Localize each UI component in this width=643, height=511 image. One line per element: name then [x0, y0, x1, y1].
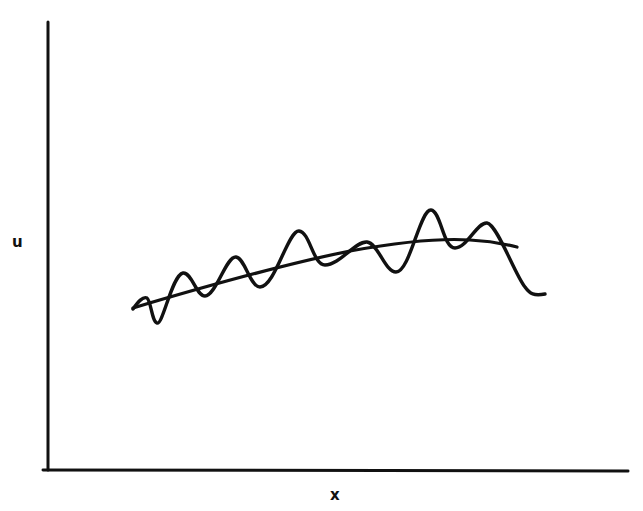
y-axis-label: u	[12, 235, 23, 250]
chart-plot-area	[0, 0, 643, 511]
smooth-trend-curve	[133, 239, 517, 308]
x-axis-line	[43, 470, 628, 471]
oscillating-curve	[133, 210, 545, 323]
chart-figure: u x	[0, 0, 643, 511]
x-axis-label: x	[330, 488, 340, 503]
